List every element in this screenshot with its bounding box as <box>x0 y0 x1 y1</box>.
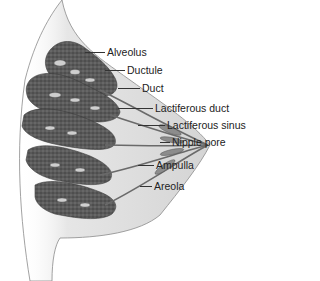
label-lactiferous-duct: Lactiferous duct <box>155 102 229 114</box>
leader-duct <box>118 88 140 89</box>
leader-lactiferous-duct <box>118 108 153 109</box>
leader-ampulla <box>138 165 154 166</box>
label-alveolus: Alveolus <box>107 46 147 58</box>
label-nipple-pore: Nipple pore <box>172 136 226 148</box>
label-lactiferous-sinus: Lactiferous sinus <box>167 119 246 131</box>
label-ampulla: Ampulla <box>156 159 194 171</box>
leader-areola <box>140 186 152 187</box>
leader-nipple-pore <box>160 142 170 143</box>
leader-lactiferous-sinus <box>138 125 165 126</box>
label-areola: Areola <box>154 180 184 192</box>
leader-alveolus <box>85 52 105 53</box>
label-duct: Duct <box>142 82 164 94</box>
label-ductule: Ductule <box>127 64 163 76</box>
leader-ductule <box>105 70 125 71</box>
